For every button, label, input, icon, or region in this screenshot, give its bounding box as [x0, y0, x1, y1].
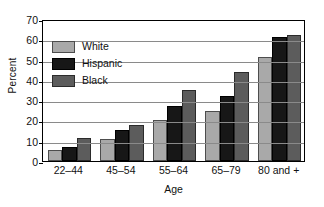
- y-tick-mark: [39, 21, 43, 22]
- y-tick-label: 40: [14, 76, 38, 86]
- legend-swatch-hispanic: [52, 58, 75, 70]
- bar-white: [48, 150, 63, 161]
- legend-item-black: Black: [52, 74, 122, 87]
- y-tick-mark: [39, 102, 43, 103]
- bar-black: [234, 72, 249, 161]
- y-tick-mark: [39, 122, 43, 123]
- bar-white: [205, 111, 220, 161]
- x-tick-label: 80 and +: [252, 164, 305, 176]
- y-axis-tick-labels: 010203040506070: [14, 20, 38, 162]
- x-tick-label: 45–54: [95, 164, 148, 176]
- legend-label: Black: [82, 75, 108, 86]
- bar-chart: Percent 010203040506070 WhiteHispanicBla…: [0, 0, 324, 207]
- bar-white: [258, 57, 273, 161]
- y-tick-mark: [39, 143, 43, 144]
- bar-hispanic: [62, 147, 77, 161]
- chart-legend: WhiteHispanicBlack: [52, 40, 122, 87]
- x-tick-label: 65–79: [200, 164, 253, 176]
- y-tick-label: 60: [14, 35, 38, 45]
- legend-item-hispanic: Hispanic: [52, 57, 122, 70]
- gridline: [43, 102, 304, 103]
- gridline: [43, 122, 304, 123]
- x-axis-title: Age: [42, 183, 305, 195]
- legend-item-white: White: [52, 40, 122, 53]
- bar-black: [77, 138, 92, 161]
- y-tick-mark: [39, 62, 43, 63]
- gridline: [43, 143, 304, 144]
- x-tick-label: 55–64: [147, 164, 200, 176]
- x-axis-tick-labels: 22–4445–5455–6465–7980 and +: [42, 164, 305, 178]
- y-tick-label: 70: [14, 15, 38, 25]
- y-tick-mark: [39, 41, 43, 42]
- legend-label: Hispanic: [82, 58, 122, 69]
- legend-label: White: [82, 41, 109, 52]
- bar-black: [182, 90, 197, 161]
- bar-hispanic: [220, 96, 235, 161]
- y-tick-label: 0: [14, 157, 38, 167]
- y-tick-mark: [39, 82, 43, 83]
- bar-hispanic: [167, 106, 182, 161]
- bar-white: [153, 120, 168, 161]
- y-tick-label: 20: [14, 116, 38, 126]
- y-tick-label: 10: [14, 137, 38, 147]
- y-tick-label: 30: [14, 96, 38, 106]
- legend-swatch-white: [52, 41, 75, 53]
- bar-hispanic: [115, 130, 130, 161]
- legend-swatch-black: [52, 75, 75, 87]
- y-tick-label: 50: [14, 56, 38, 66]
- x-tick-label: 22–44: [42, 164, 95, 176]
